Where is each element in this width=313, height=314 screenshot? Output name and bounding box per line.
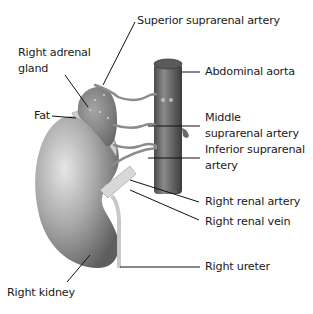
label-inferior-suprarenal-artery-line2: artery: [205, 159, 238, 173]
label-right-adrenal-gland-line2: gland: [18, 62, 48, 76]
kidney-anatomy-diagram: Superior suprarenal artery Right adrenal…: [0, 0, 313, 314]
label-right-adrenal-gland-line1: Right adrenal: [18, 46, 91, 60]
label-right-renal-artery: Right renal artery: [205, 195, 300, 209]
label-right-kidney: Right kidney: [7, 286, 75, 300]
label-middle-suprarenal-artery-line1: Middle: [205, 111, 241, 125]
label-right-renal-vein: Right renal vein: [205, 215, 290, 229]
label-superior-suprarenal-artery: Superior suprarenal artery: [137, 14, 280, 28]
label-inferior-suprarenal-artery-line1: Inferior suprarenal: [205, 143, 305, 157]
label-right-ureter: Right ureter: [205, 260, 270, 274]
label-middle-suprarenal-artery-line2: suprarenal artery: [205, 127, 299, 141]
label-fat: Fat: [34, 109, 50, 123]
label-abdominal-aorta: Abdominal aorta: [205, 65, 295, 79]
